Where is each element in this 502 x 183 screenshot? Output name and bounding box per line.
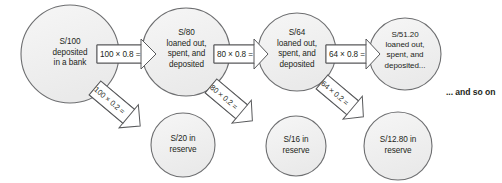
loan-arrow-label-3: 64 × 0.8 = bbox=[329, 50, 365, 59]
diagram-shapes bbox=[0, 0, 502, 183]
loan-arrow-label-1: 100 × 0.8 = bbox=[100, 50, 140, 59]
reserve-circle-3 bbox=[364, 112, 432, 180]
reserve-circle-2 bbox=[266, 116, 326, 176]
diagram-canvas: S/100 deposited in a bank S/80 loaned ou… bbox=[0, 0, 502, 183]
and-so-on-note: ... and so on bbox=[446, 87, 495, 97]
reserve-circle-1 bbox=[151, 113, 215, 177]
loan-arrow-label-2: 80 × 0.8 = bbox=[217, 50, 253, 59]
